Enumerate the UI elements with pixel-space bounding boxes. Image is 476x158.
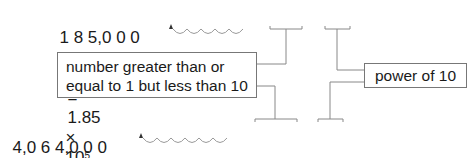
coefficient-label-box: number greater than or equal to 1 but le… (57, 52, 257, 98)
coefficient-label-line-1: number greater than or (66, 57, 256, 76)
power-bracket-bottom (318, 119, 343, 122)
power-label: power of 10 (375, 67, 456, 84)
coefficient-bracket-bottom (255, 119, 297, 122)
decimal-move-arcs-bottom (143, 138, 227, 143)
standard-form-1: 1 8 5,0 0 0 (59, 28, 139, 48)
coefficient-leader-top (257, 29, 286, 64)
coefficient-leader-bottom (257, 86, 275, 119)
coefficient-bracket-top (270, 26, 302, 29)
standard-form-2: 4,0 6 4,0 0 0 (12, 138, 107, 158)
decimal-arrow-top (169, 24, 173, 29)
decimal-move-arcs-top (173, 29, 243, 34)
power-label-box: power of 10 (364, 63, 467, 88)
power-leader-bottom (330, 82, 364, 119)
power-leader-top (337, 29, 364, 70)
coefficient-label-line-2: equal to 1 but less than 10 (66, 76, 256, 95)
power-bracket-top (325, 26, 350, 29)
equation-row-2: 4,0 6 4,0 0 0 = 40 6 4 0 0 0 = 4.064 × 1… (3, 118, 116, 158)
